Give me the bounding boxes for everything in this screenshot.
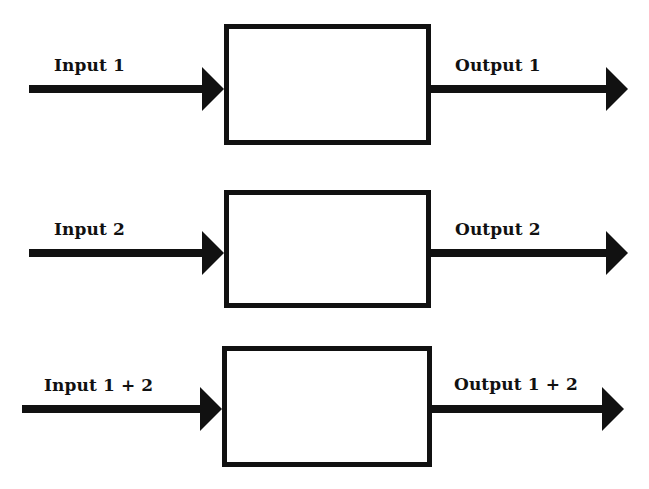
input-arrow-shaft xyxy=(29,249,202,257)
output-2-label: Output 2 xyxy=(455,219,541,239)
output-arrow-shaft xyxy=(431,85,606,93)
input-arrow-shaft xyxy=(22,405,200,413)
input-arrowhead-icon xyxy=(202,67,224,111)
process-box-1 xyxy=(227,27,429,143)
diagram-row-2 xyxy=(29,193,628,306)
diagram-row-1-plus-2 xyxy=(22,349,624,465)
output-1-label: Output 1 xyxy=(455,55,541,75)
input-1-plus-2-label: Input 1 + 2 xyxy=(44,375,153,395)
output-arrowhead-icon xyxy=(606,231,628,275)
input-1-label: Input 1 xyxy=(54,55,125,75)
process-box-2 xyxy=(227,193,429,306)
input-arrowhead-icon xyxy=(200,387,222,431)
input-arrowhead-icon xyxy=(202,231,224,275)
output-arrowhead-icon xyxy=(606,67,628,111)
process-box-1-plus-2 xyxy=(225,349,430,465)
input-2-label: Input 2 xyxy=(54,219,125,239)
output-arrow-shaft xyxy=(432,405,602,413)
input-arrow-shaft xyxy=(29,85,202,93)
output-1-plus-2-label: Output 1 + 2 xyxy=(454,374,578,394)
diagram-row-1 xyxy=(29,27,628,143)
diagram-canvas: Input 1 Output 1 Input 2 Output 2 Input … xyxy=(0,0,649,489)
output-arrowhead-icon xyxy=(602,387,624,431)
output-arrow-shaft xyxy=(431,249,606,257)
